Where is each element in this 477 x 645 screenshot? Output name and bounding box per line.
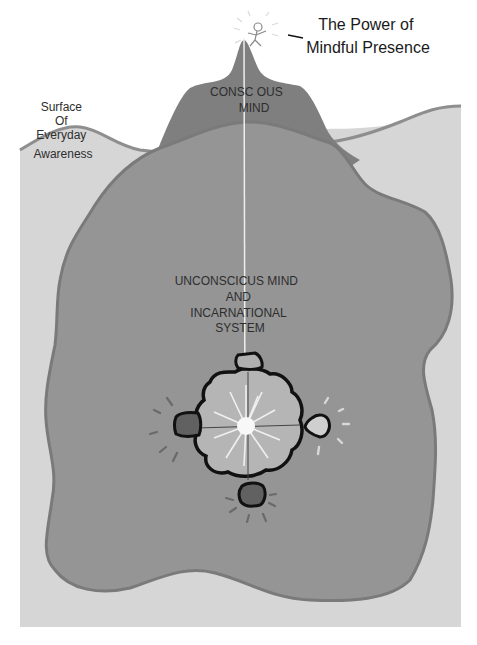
iceberg-mind-diagram: The Power of Mindful Presence Surface Of… (0, 0, 477, 645)
core-glow-icon (237, 417, 255, 435)
surface-label: Surface Of Everyday Awareness (33, 100, 92, 161)
diagram-title: The Power of Mindful Presence (306, 16, 430, 56)
title-pointer (288, 35, 303, 38)
node-left (175, 412, 201, 436)
stick-figure-icon (248, 23, 266, 46)
node-top (236, 353, 262, 369)
node-bottom (239, 483, 265, 506)
